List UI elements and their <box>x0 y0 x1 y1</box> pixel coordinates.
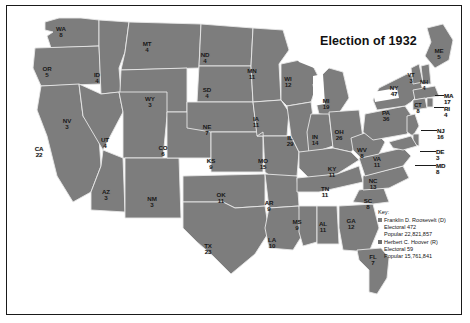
key-heading: Key: <box>378 209 446 216</box>
key-candidate-row: Herbert C. Hoover (R) <box>378 239 446 246</box>
key-candidate-row: Franklin D. Roosevelt (D) <box>378 217 446 224</box>
state-sd <box>197 66 253 102</box>
key-entry-list: Franklin D. Roosevelt (D)Electoral 472Po… <box>378 217 446 261</box>
state-mt <box>121 22 201 70</box>
key-color-swatch <box>378 240 382 244</box>
key-color-swatch <box>378 218 382 222</box>
state-ms <box>299 206 317 246</box>
key-popular-total: Popular 15,761,841 <box>384 253 446 260</box>
key-candidate-name: Herbert C. Hoover (R) <box>384 239 438 246</box>
map-key: Key: Franklin D. Roosevelt (D)Electoral … <box>378 209 446 261</box>
leader-ma <box>435 95 444 96</box>
state-ut <box>119 92 167 158</box>
state-ia <box>253 100 289 136</box>
lake-michigan <box>313 74 325 106</box>
state-nm <box>125 158 181 218</box>
leader-nj <box>421 130 437 131</box>
leader-de <box>420 151 436 152</box>
key-electoral-total: Electoral 472 <box>384 224 446 231</box>
state-ar <box>265 174 299 208</box>
map-canvas: Election of 1932 WA8OR5CA22NV3ID4MT4WY3U… <box>7 6 461 314</box>
state-nh <box>421 64 431 84</box>
state-ct <box>413 98 427 110</box>
key-electoral-total: Electoral 59 <box>384 246 446 253</box>
key-candidate-name: Franklin D. Roosevelt (D) <box>384 217 446 224</box>
leader-md <box>415 165 436 166</box>
state-or <box>33 46 101 86</box>
state-al <box>317 206 339 244</box>
key-entry: Herbert C. Hoover (R)Electoral 59Popular… <box>378 239 446 261</box>
state-ri <box>427 98 433 107</box>
map-frame: Election of 1932 WA8OR5CA22NV3ID4MT4WY3U… <box>6 5 462 315</box>
us-electoral-map-svg <box>7 6 461 314</box>
state-wa <box>45 18 99 48</box>
map-title: Election of 1932 <box>320 34 417 48</box>
key-entry: Franklin D. Roosevelt (D)Electoral 472Po… <box>378 217 446 239</box>
state-ks <box>211 132 263 172</box>
state-la <box>265 206 303 250</box>
leader-ri <box>434 107 444 108</box>
key-popular-total: Popular 22,821,857 <box>384 231 446 238</box>
state-nd <box>199 24 253 66</box>
state-ne <box>187 102 257 132</box>
